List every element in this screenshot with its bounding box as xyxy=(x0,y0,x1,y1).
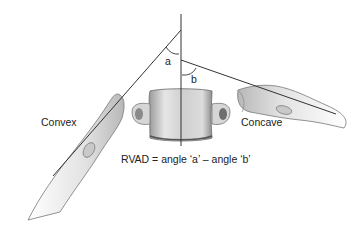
convex-label: Convex xyxy=(41,116,77,128)
angle-b-label: b xyxy=(191,73,197,85)
convex-rib xyxy=(28,94,124,220)
angle-a-label: a xyxy=(165,55,171,67)
rvad-formula: RVAD = angle ‘a’ – angle ‘b’ xyxy=(121,153,251,165)
angle-a-arc xyxy=(166,47,179,54)
concave-label: Concave xyxy=(241,116,282,128)
